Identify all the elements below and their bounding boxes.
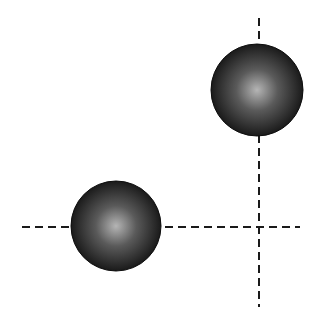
- upper-right-sphere: [211, 44, 303, 136]
- diagram-canvas: [0, 0, 319, 323]
- lower-left-sphere: [71, 181, 161, 271]
